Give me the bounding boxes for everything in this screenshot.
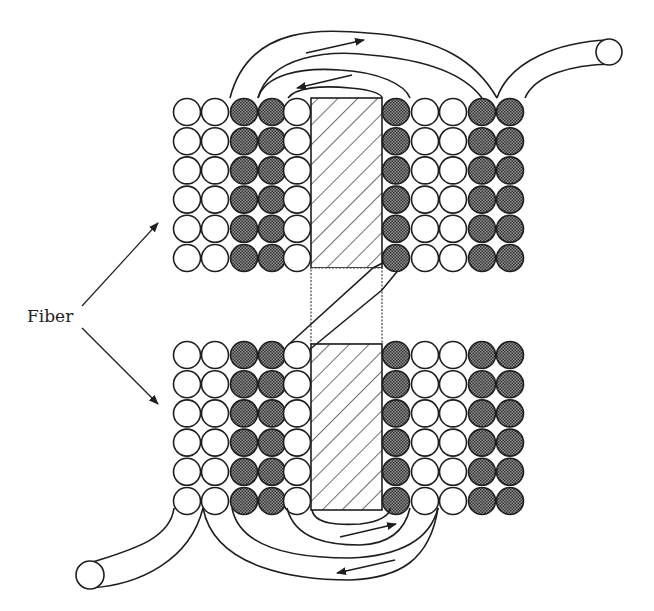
fiber-cross-section-white [174,488,201,515]
fiber-cross-section-white [202,458,229,485]
fiber-cross-section-white [440,157,467,184]
fiber-cross-section-white [202,245,229,272]
fiber-cross-section-white [412,157,439,184]
fiber-cross-section-dark [259,458,286,485]
fiber-cross-section-white [412,245,439,272]
fiber-cross-section-white [440,429,467,456]
fiber-cross-section-dark [497,186,524,213]
fiber-cross-section-dark [259,342,286,369]
flow-arrow-bottom-inner [340,524,396,537]
fiber-cross-section-dark [497,215,524,242]
fiber-cross-section-white [174,128,201,155]
fiber-cross-section-dark [383,371,410,398]
fiber-cross-section-white [202,342,229,369]
fiber-cross-section-dark [469,186,496,213]
fiber-cross-section-dark [383,400,410,427]
fiber-cross-section-white [440,128,467,155]
fiber-end-top-right [596,39,622,65]
fiber-cross-section-white [174,458,201,485]
fiber-cross-section-white [412,186,439,213]
top-lead-upper [497,40,608,98]
fiber-cross-section-white [202,215,229,242]
fiber-cross-section-white [174,429,201,456]
fiber-cross-section-dark [497,128,524,155]
fiber-cross-section-white [412,458,439,485]
fiber-cross-section-white [202,429,229,456]
fiber-cross-section-dark [259,429,286,456]
fiber-cross-section-dark [469,429,496,456]
fiber-cross-section-dark [383,215,410,242]
fiber-cross-section-dark [497,458,524,485]
fiber-cross-section-dark [497,400,524,427]
fiber-cross-section-white [174,342,201,369]
fiber-cross-section-white [174,371,201,398]
fiber-cross-section-white [440,215,467,242]
fiber-cross-section-white [202,157,229,184]
fiber-cross-section-dark [497,488,524,515]
fiber-cross-section-white [284,157,311,184]
top-inner-loop [288,87,382,98]
fiber-cross-section-dark [383,342,410,369]
fiber-cross-section-dark [469,99,496,126]
fiber-cross-section-white [412,128,439,155]
fiber-cross-section-dark [383,157,410,184]
fiber-cross-section-white [174,157,201,184]
fiber-cross-section-white [202,400,229,427]
fiber-cross-section-dark [469,342,496,369]
fiber-cross-section-dark [497,371,524,398]
fiber-cross-section-white [440,245,467,272]
fiber-cross-section-dark [383,488,410,515]
fiber-end-bottom-left [76,561,104,589]
fiber-cross-section-white [412,488,439,515]
fiber-cross-section-dark [469,458,496,485]
fiber-cross-section-dark [259,371,286,398]
fiber-cross-section-dark [497,342,524,369]
fiber-cross-section-dark [383,128,410,155]
fiber-cross-section-dark [259,400,286,427]
fiber-cross-section-dark [469,157,496,184]
fiber-cross-section-white [174,99,201,126]
flow-arrow-bottom-outer [337,560,395,573]
fiber-cross-section-dark [469,371,496,398]
fiber-cross-section-dark [231,128,258,155]
bottom-outer-loop [203,508,438,580]
bottom-lead-upper [90,508,174,563]
fiber-cross-section-white [412,215,439,242]
fiber-cross-section-white [174,215,201,242]
fiber-cross-section-dark [469,128,496,155]
fiber-cross-section-dark [231,99,258,126]
fiber-cross-section-white [284,342,311,369]
fiber-cross-section-white [412,99,439,126]
fiber-cross-section-white [284,458,311,485]
fiber-cross-section-dark [469,215,496,242]
fiber-cross-section-white [284,371,311,398]
top-outer-loop [230,31,497,98]
fiber-cross-section-dark [231,157,258,184]
core-bottom-hatched [311,344,382,510]
bottom-fiber-loops [76,508,438,589]
fiber-cross-section-white [284,128,311,155]
fiber-cross-section-white [202,371,229,398]
fiber-cross-section-dark [497,99,524,126]
fiber-cross-section-dark [497,245,524,272]
fiber-cross-section-white [174,186,201,213]
fiber-cross-section-dark [231,215,258,242]
fiber-label-group: Fiber [27,223,158,404]
pointer-arrow-up [82,223,158,306]
fiber-cross-section-white [202,488,229,515]
flow-arrow-top-outer [306,40,364,53]
fiber-cross-section-dark [231,400,258,427]
fiber-cross-section-dark [259,99,286,126]
fiber-cross-section-dark [383,245,410,272]
fiber-label: Fiber [27,306,74,326]
fiber-cross-section-white [440,400,467,427]
fiber-coil-diagram: Fiber [0,0,654,611]
fiber-cross-section-dark [469,400,496,427]
fiber-cross-section-dark [259,157,286,184]
fiber-cross-section-dark [231,342,258,369]
pointer-arrow-down [82,328,158,404]
fiber-cross-section-white [284,245,311,272]
fiber-cross-section-white [284,99,311,126]
fiber-cross-section-dark [231,429,258,456]
fiber-cross-section-dark [259,128,286,155]
